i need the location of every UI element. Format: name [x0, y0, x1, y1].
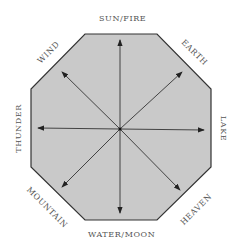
octagon-diagram — [0, 0, 238, 247]
label-sun-fire: SUN/FIRE — [99, 14, 146, 23]
label-water-moon: WATER/MOON — [88, 230, 155, 239]
center-point — [119, 128, 122, 131]
octagon-shape — [31, 34, 211, 220]
label-lake: LAKE — [219, 116, 228, 141]
label-thunder: THUNDER — [14, 104, 23, 153]
